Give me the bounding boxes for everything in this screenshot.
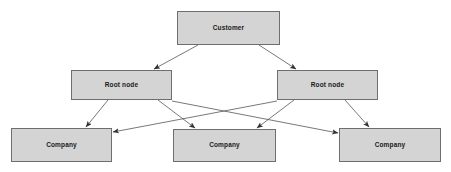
edge-customer-to-root-left [154,45,198,69]
node-company-right-label: Company [375,142,406,149]
edge-root-right-to-company-right [345,100,369,127]
node-company-middle[interactable]: Company [173,129,276,162]
node-customer[interactable]: Customer [177,11,280,45]
node-root-right-label: Root node [311,82,344,89]
node-root-right[interactable]: Root node [277,70,378,100]
diagram-canvas: Customer Root node Root node Company Com… [0,0,451,172]
edge-root-left-to-company-left [86,100,108,127]
node-company-right[interactable]: Company [339,128,441,162]
node-company-left-label: Company [46,142,77,149]
node-company-middle-label: Company [209,142,240,149]
node-customer-label: Customer [213,25,245,32]
node-company-left[interactable]: Company [11,128,112,162]
node-root-left-label: Root node [105,82,138,89]
node-root-left[interactable]: Root node [71,70,172,100]
edge-customer-to-root-right [259,45,296,69]
